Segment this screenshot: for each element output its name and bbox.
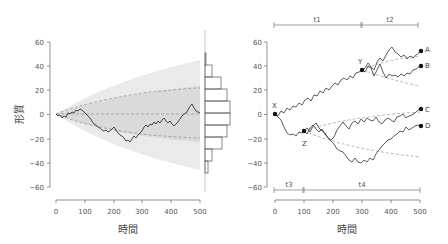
point-x: [273, 112, 277, 116]
x-tick-label: 500: [193, 208, 206, 216]
right-y-tick-labels: 60 40 20 0 −20 −40 −60: [247, 39, 262, 192]
y-tick-label: 60: [253, 39, 262, 47]
point-c: [419, 107, 423, 111]
x-tick-label: 400: [384, 208, 397, 216]
left-y-tick-labels: 60 40 20 0 −20 −40 −60: [29, 39, 44, 192]
path-y-to-a: [362, 47, 420, 70]
point-y: [360, 68, 364, 72]
branching-paths: [275, 47, 420, 163]
figure: 60 40 20 0 −20 −40 −60 形質 0 100 200 300 …: [0, 0, 448, 244]
x-tick-label: 300: [355, 208, 368, 216]
label-z: Z: [302, 140, 307, 148]
y-tick-label: −20: [247, 136, 262, 144]
x-tick-label: 100: [78, 208, 91, 216]
x-tick-label: 0: [54, 208, 58, 216]
x-tick-label: 200: [326, 208, 339, 216]
label-d: D: [425, 122, 430, 130]
y-tick-label: −60: [29, 184, 44, 192]
point-b: [419, 64, 423, 68]
left-y-axis: [47, 42, 50, 187]
x-tick-label: 200: [107, 208, 120, 216]
right-x-axis: [275, 200, 420, 203]
x-tick-label: 400: [164, 208, 177, 216]
y-tick-label: 20: [35, 87, 44, 95]
left-panel: 60 40 20 0 −20 −40 −60 形質 0 100 200 300 …: [13, 30, 230, 235]
path-x-to-z: [275, 114, 304, 136]
left-x-axis-title: 時間: [118, 224, 138, 235]
interval-bars-top: [274, 22, 418, 28]
node-points: [273, 49, 423, 133]
right-y-axis: [264, 42, 267, 187]
label-a: A: [425, 46, 430, 54]
x-tick-label: 300: [135, 208, 148, 216]
x-tick-label: 100: [297, 208, 310, 216]
point-labels: X Y Z A B C D: [272, 46, 430, 148]
left-x-tick-labels: 0 100 200 300 400 500: [54, 208, 207, 216]
interval-label-t4: t4: [358, 181, 366, 189]
x-tick-label: 500: [413, 208, 426, 216]
label-x: X: [272, 102, 277, 110]
y-tick-label: 60: [35, 39, 44, 47]
left-y-axis-title: 形質: [13, 104, 25, 124]
label-b: B: [425, 62, 430, 70]
y-tick-label: 20: [253, 87, 262, 95]
point-d: [419, 124, 423, 128]
interval-label-t2: t2: [386, 16, 393, 24]
interval-label-t3: t3: [285, 181, 292, 189]
point-a: [419, 49, 423, 53]
right-x-tick-labels: 0 100 200 300 400 500: [273, 208, 427, 216]
right-x-axis-title: 時間: [337, 224, 357, 235]
y-tick-label: 0: [40, 111, 44, 119]
point-z: [302, 129, 306, 133]
label-y: Y: [357, 58, 363, 66]
y-tick-label: 0: [258, 111, 262, 119]
path-z-to-c: [304, 109, 420, 140]
y-tick-label: −20: [29, 136, 44, 144]
label-c: C: [425, 106, 430, 114]
y-tick-label: 40: [253, 63, 262, 71]
path-x-to-y: [275, 70, 362, 116]
x-tick-label: 0: [273, 208, 277, 216]
left-x-axis: [56, 200, 200, 203]
interval-label-t1: t1: [313, 16, 320, 24]
y-tick-label: −40: [29, 160, 44, 168]
right-panel: t1 t2 X Y: [247, 16, 430, 235]
interval-bars-bottom: [274, 187, 420, 193]
y-tick-label: −40: [247, 160, 262, 168]
y-tick-label: 40: [35, 63, 44, 71]
marginal-histogram: [205, 30, 230, 192]
y-tick-label: −60: [247, 184, 262, 192]
